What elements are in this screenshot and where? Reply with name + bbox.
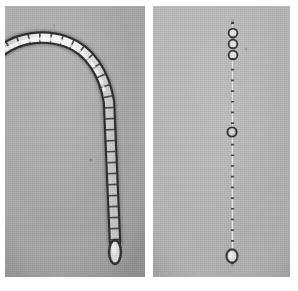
panel-right-illumination xyxy=(153,6,290,277)
debris-speck-right xyxy=(245,48,248,51)
panel-left-image xyxy=(5,6,145,277)
terminal-cell-right xyxy=(225,248,238,264)
debris-speck-left-2 xyxy=(53,25,55,27)
filament-right-lumen xyxy=(232,28,233,258)
micrograph-figure xyxy=(0,0,298,291)
panel-right-image xyxy=(153,6,290,277)
terminal-cell-left xyxy=(108,239,122,265)
debris-speck-left xyxy=(89,158,92,161)
micrograph-panel-left xyxy=(5,6,145,277)
panel-gap xyxy=(145,0,153,291)
micrograph-panel-right xyxy=(153,6,290,277)
